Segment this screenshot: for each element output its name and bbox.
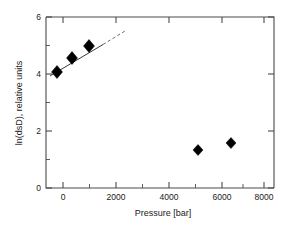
x-tick-label: 6000 [213, 192, 232, 202]
x-tick-label: 2000 [107, 192, 126, 202]
y-tick-label: 4 [36, 69, 41, 79]
x-tick-label: 4000 [160, 192, 179, 202]
top-frame-ticks [63, 17, 264, 23]
data-point-marker [67, 52, 78, 65]
x-axis-title: Pressure [bar] [135, 208, 192, 218]
data-point-marker [52, 66, 63, 79]
x-axis-major-ticks [63, 182, 264, 188]
y-tick-label: 2 [36, 126, 41, 136]
x-tick-label: 0 [61, 192, 66, 202]
plot-frame [46, 17, 274, 188]
data-point-marker [226, 138, 236, 149]
chart-figure: 6 4 2 0 0 2000 4000 6000 8000 Pressure [… [0, 0, 284, 226]
x-axis-minor-ticks [90, 184, 244, 188]
data-markers [52, 40, 237, 156]
fit-lines [50, 31, 125, 76]
y-axis-minor-ticks [46, 46, 50, 160]
y-axis-title: ln(dsD), relative units [14, 60, 24, 145]
x-tick-label: 8000 [255, 192, 274, 202]
y-tick-label: 0 [36, 183, 41, 193]
scatter-plot-svg: 6 4 2 0 0 2000 4000 6000 8000 Pressure [… [0, 0, 284, 226]
data-point-marker [193, 145, 203, 156]
x-tick-labels: 0 2000 4000 6000 8000 [61, 192, 274, 202]
right-frame-ticks [268, 17, 274, 188]
y-tick-labels: 6 4 2 0 [36, 12, 41, 193]
y-tick-label: 6 [36, 12, 41, 22]
